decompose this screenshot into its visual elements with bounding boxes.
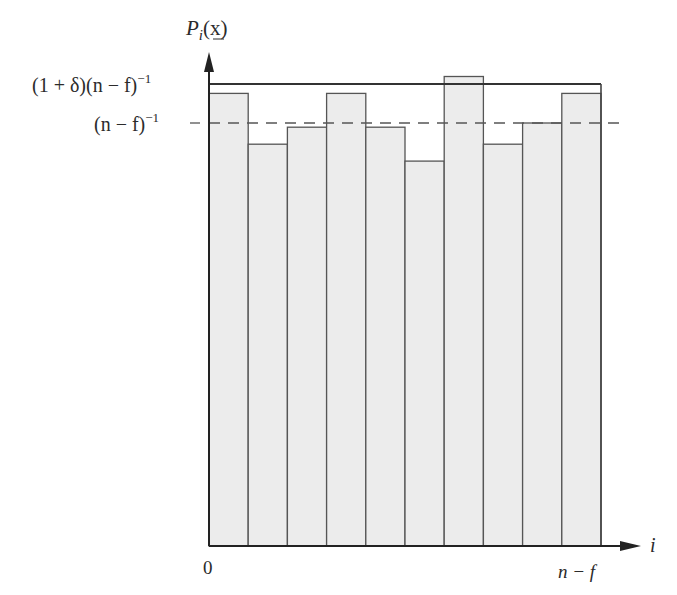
bar-6 [405,161,444,546]
upper-bound-label: (1 + δ)(n − f)−1 [32,71,151,97]
bars-group [209,77,601,547]
histogram-chart: Pi(x) (1 + δ)(n − f)−1 (n − f)−1 i 0 n −… [0,0,677,595]
bar-5 [366,127,405,546]
bar-3 [287,127,326,546]
bar-2 [248,144,287,546]
bar-1 [209,93,248,546]
bar-4 [327,93,366,546]
bar-10 [562,93,601,546]
y-axis-arrow-icon [204,52,214,72]
bar-9 [523,123,562,546]
x-tick-end: n − f [558,561,598,582]
bar-7 [444,77,483,547]
bar-8 [483,144,522,546]
mean-label: (n − f)−1 [94,110,159,136]
x-axis-arrow-icon [620,541,641,551]
x-tick-start: 0 [203,557,213,578]
x-axis-label: i [650,534,656,556]
